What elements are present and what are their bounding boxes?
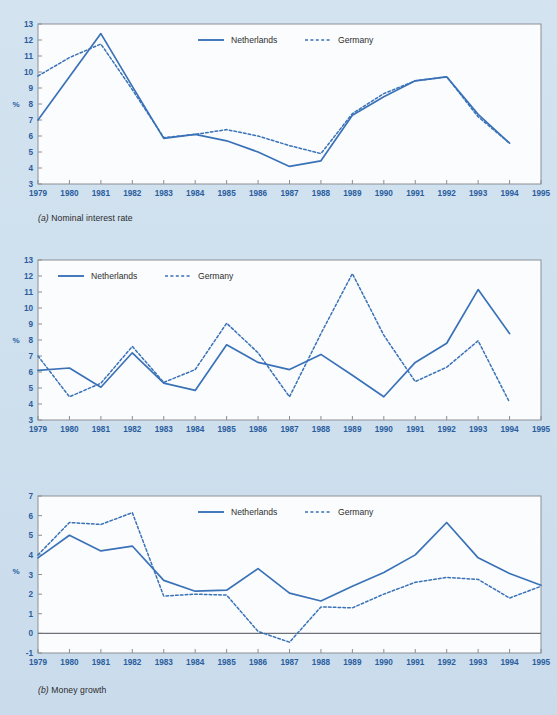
plot-frame-(c) Inflation	[38, 496, 541, 653]
caption-b: (b) Money growth	[38, 685, 107, 695]
x-axis-tick-label: 1995	[532, 425, 551, 434]
y-axis-tick-label: 7	[28, 492, 33, 501]
y-axis-tick-label: 4	[28, 551, 33, 560]
caption-a: (a) Nominal interest rate	[38, 213, 133, 223]
x-axis-tick-label: 1995	[532, 189, 551, 198]
y-axis-tick-label: 3	[28, 571, 33, 580]
y-axis-tick-label: 0	[28, 629, 33, 638]
plot-area-b: 3456789101112131979198019811982198319841…	[0, 236, 557, 436]
y-axis-tick-label: 13	[24, 20, 34, 29]
x-axis-tick-label: 1994	[500, 425, 519, 434]
y-axis-tick-label: 10	[24, 304, 34, 313]
legend-label-germany: Germany	[338, 507, 374, 517]
plot-area-a: 3456789101112131979198019811982198319841…	[0, 0, 557, 200]
x-axis-tick-label: 1990	[375, 189, 394, 198]
x-axis-tick-label: 1981	[92, 425, 111, 434]
x-axis-tick-label: 1988	[312, 658, 331, 667]
y-axis-tick-label: 12	[24, 272, 34, 281]
y-axis-tick-label: 2	[28, 590, 33, 599]
x-axis-tick-label: 1990	[375, 425, 394, 434]
y-axis-tick-label: 6	[28, 512, 33, 521]
line-chart-nominal-interest-rate: 3456789101112131979198019811982198319841…	[0, 0, 557, 205]
plot-frame-(a) Nominal interest rate	[38, 24, 541, 184]
legend-label-germany: Germany	[338, 35, 374, 45]
x-axis-tick-label: 1989	[343, 658, 362, 667]
x-axis-tick-label: 1990	[375, 658, 394, 667]
y-axis-tick-label: 4	[28, 164, 33, 173]
x-axis-tick-label: 1983	[155, 189, 174, 198]
y-axis-tick-label: 9	[28, 320, 33, 329]
y-axis-tick-label: -1	[26, 649, 34, 658]
x-axis-tick-label: 1986	[249, 658, 268, 667]
y-axis-tick-label: 11	[24, 288, 33, 297]
x-axis-tick-label: 1984	[186, 189, 205, 198]
x-axis-tick-label: 1991	[406, 658, 425, 667]
y-axis-tick-label: 12	[24, 36, 34, 45]
x-axis-tick-label: 1983	[155, 658, 174, 667]
y-axis-tick-label: 6	[28, 132, 33, 141]
y-axis-tick-label: 9	[28, 84, 33, 93]
x-axis-tick-label: 1981	[92, 189, 111, 198]
y-axis-tick-label: 1	[28, 610, 33, 619]
y-axis-tick-label: 7	[28, 352, 33, 361]
y-axis-tick-label: 5	[28, 384, 33, 393]
chart-panel-c: -101234567197919801981198219831984198519…	[0, 472, 557, 672]
y-axis-tick-label: 8	[28, 336, 33, 345]
x-axis-tick-label: 1983	[155, 425, 174, 434]
y-axis-unit-label: %	[12, 100, 19, 109]
x-axis-tick-label: 1993	[469, 425, 488, 434]
x-axis-tick-label: 1989	[343, 425, 362, 434]
x-axis-tick-label: 1984	[186, 425, 205, 434]
chart-panel-b: 3456789101112131979198019811982198319841…	[0, 236, 557, 436]
y-axis-unit-label: %	[12, 336, 19, 345]
figure-page: 3456789101112131979198019811982198319841…	[0, 0, 557, 715]
x-axis-tick-label: 1982	[123, 189, 142, 198]
caption-b-label: (b)	[38, 685, 49, 695]
y-axis-tick-label: 13	[24, 256, 34, 265]
y-axis-unit-label: %	[12, 567, 19, 576]
x-axis-tick-label: 1988	[312, 189, 331, 198]
x-axis-tick-label: 1991	[406, 425, 425, 434]
x-axis-tick-label: 1987	[280, 189, 299, 198]
x-axis-tick-label: 1993	[469, 189, 488, 198]
x-axis-tick-label: 1994	[500, 189, 519, 198]
x-axis-tick-label: 1980	[60, 425, 79, 434]
x-axis-tick-label: 1985	[218, 425, 237, 434]
y-axis-tick-label: 3	[28, 180, 33, 189]
caption-a-label: (a)	[38, 213, 49, 223]
x-axis-tick-label: 1994	[500, 658, 519, 667]
y-axis-tick-label: 8	[28, 100, 33, 109]
x-axis-tick-label: 1984	[186, 658, 205, 667]
legend-label-germany: Germany	[198, 271, 234, 281]
legend-label-netherlands: Netherlands	[231, 507, 277, 517]
plot-area-c: -101234567197919801981198219831984198519…	[0, 472, 557, 672]
y-axis-tick-label: 5	[28, 148, 33, 157]
x-axis-tick-label: 1987	[280, 658, 299, 667]
x-axis-tick-label: 1992	[438, 658, 457, 667]
x-axis-tick-label: 1979	[29, 189, 48, 198]
x-axis-tick-label: 1995	[532, 658, 551, 667]
y-axis-tick-label: 6	[28, 368, 33, 377]
x-axis-tick-label: 1979	[29, 658, 48, 667]
x-axis-tick-label: 1982	[123, 658, 142, 667]
y-axis-tick-label: 4	[28, 400, 33, 409]
x-axis-tick-label: 1992	[438, 425, 457, 434]
x-axis-tick-label: 1988	[312, 425, 331, 434]
x-axis-tick-label: 1989	[343, 189, 362, 198]
legend-label-netherlands: Netherlands	[231, 35, 277, 45]
legend-label-netherlands: Netherlands	[91, 271, 137, 281]
y-axis-tick-label: 11	[24, 52, 33, 61]
caption-a-text: Nominal interest rate	[51, 213, 132, 223]
x-axis-tick-label: 1985	[218, 658, 237, 667]
x-axis-tick-label: 1986	[249, 425, 268, 434]
x-axis-tick-label: 1985	[218, 189, 237, 198]
x-axis-tick-label: 1991	[406, 189, 425, 198]
y-axis-tick-label: 10	[24, 68, 34, 77]
y-axis-tick-label: 3	[28, 416, 33, 425]
x-axis-tick-label: 1979	[29, 425, 48, 434]
x-axis-tick-label: 1981	[92, 658, 111, 667]
x-axis-tick-label: 1987	[280, 425, 299, 434]
x-axis-tick-label: 1992	[438, 189, 457, 198]
x-axis-tick-label: 1980	[60, 658, 79, 667]
x-axis-tick-label: 1993	[469, 658, 488, 667]
